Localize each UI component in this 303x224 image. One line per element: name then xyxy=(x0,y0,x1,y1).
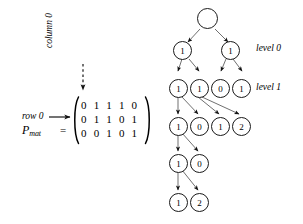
level-1-annotation: level 1 xyxy=(256,83,281,93)
tree-node[interactable]: 1 xyxy=(169,117,188,136)
tree-edge xyxy=(178,59,182,71)
equals-sign: = xyxy=(60,125,66,136)
tree-node-root[interactable] xyxy=(197,8,218,29)
tree-node[interactable]: 1 xyxy=(221,41,240,60)
tree-node[interactable]: 0 xyxy=(190,117,209,136)
tree-edge xyxy=(182,170,198,190)
tree-edge xyxy=(182,133,198,151)
tree-node[interactable]: 0 xyxy=(211,79,230,98)
column-0-label: column 0 xyxy=(45,13,55,48)
tree-edge xyxy=(189,59,199,71)
row-0-label: row 0 xyxy=(22,112,44,122)
tree-node[interactable]: 1 xyxy=(211,117,230,136)
tree-node[interactable]: 2 xyxy=(232,117,251,136)
tree-edge xyxy=(215,29,228,42)
tree-node[interactable]: 1 xyxy=(190,79,209,98)
figure-canvas: row 0 Pmat = column 0 0 1 1 1 0 0 1 1 0 … xyxy=(0,0,303,224)
matrix-row: 0 1 1 0 1 xyxy=(81,113,139,125)
tree-node[interactable]: 2 xyxy=(190,193,209,212)
tree-node[interactable]: 0 xyxy=(190,154,209,173)
tree-edge xyxy=(182,97,198,114)
tree-edge xyxy=(202,97,239,114)
tree-node[interactable]: 1 xyxy=(169,79,188,98)
pmat-name-label: Pmat xyxy=(22,124,41,138)
pmat-subscript: mat xyxy=(29,129,40,138)
tree-edge xyxy=(221,59,226,71)
matrix-row: 0 0 1 0 1 xyxy=(81,127,139,139)
tree-node[interactable]: 1 xyxy=(173,41,192,60)
tree-node[interactable]: 1 xyxy=(232,79,251,98)
tree-edge xyxy=(233,59,242,71)
tree-edge xyxy=(188,29,200,42)
tree-node[interactable]: 1 xyxy=(169,193,188,212)
tree-edge xyxy=(198,97,219,114)
tree-node[interactable]: 1 xyxy=(169,154,188,173)
matrix-row: 0 1 1 1 0 xyxy=(81,99,139,111)
matrix-pmat: 0 1 1 1 0 0 1 1 0 1 0 0 1 0 1 xyxy=(72,95,150,145)
level-0-annotation: level 0 xyxy=(256,44,281,54)
